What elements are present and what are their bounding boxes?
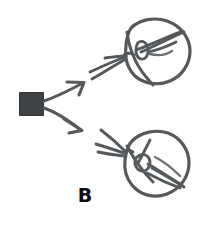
diagram-canvas [0, 0, 213, 229]
emitter-square [19, 92, 44, 116]
panel-label-b: B [68, 184, 102, 206]
figure-panel-b: B [0, 0, 213, 229]
